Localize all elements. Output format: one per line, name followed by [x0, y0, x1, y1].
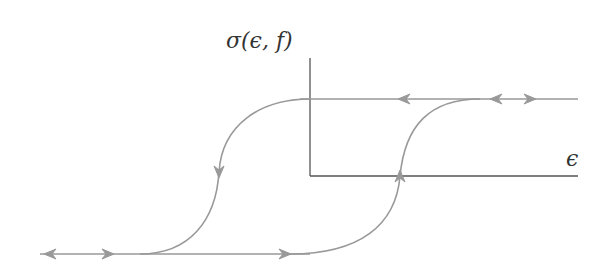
hysteresis-diagram: [0, 0, 606, 279]
y-axis-label: σ(ϵ, f): [226, 28, 293, 53]
x-axis-label: ϵ: [566, 146, 578, 171]
axes: [310, 58, 578, 176]
descending-branch-curve: [140, 99, 310, 254]
